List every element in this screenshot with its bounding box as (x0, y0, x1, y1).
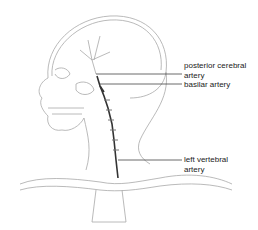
leader-lines (96, 74, 182, 160)
label-left-vertebral-artery: left vertebral artery (184, 155, 228, 174)
label-posterior-cerebral-artery: posterior cerebral artery (184, 61, 246, 80)
skull-outline (20, 16, 232, 222)
label-basilar-artery: basilar artery (184, 80, 230, 90)
head-neck-illustration (0, 0, 258, 230)
vertebral-artery-path (97, 76, 118, 178)
anatomy-figure: posterior cerebral artery basilar artery… (0, 0, 258, 230)
arteries (97, 76, 118, 178)
